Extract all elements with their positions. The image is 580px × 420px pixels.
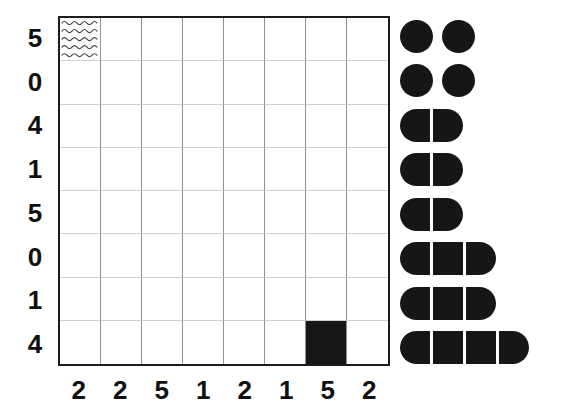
grid-cell[interactable] bbox=[101, 18, 142, 61]
grid-cell[interactable] bbox=[224, 105, 265, 148]
pill-left-cap bbox=[400, 287, 430, 320]
grid-cell[interactable] bbox=[60, 191, 101, 234]
pill-left-cap bbox=[400, 242, 430, 275]
grid-cell[interactable] bbox=[347, 278, 388, 321]
pill-middle-segment bbox=[433, 287, 463, 320]
grid-container bbox=[58, 16, 390, 366]
grid-cell[interactable] bbox=[265, 148, 306, 191]
grid-cell[interactable] bbox=[265, 61, 306, 104]
grid-cell[interactable] bbox=[306, 191, 347, 234]
row-label-axis: 50415014 bbox=[16, 16, 54, 366]
grid-cell[interactable] bbox=[224, 61, 265, 104]
row-label: 0 bbox=[16, 235, 54, 279]
grid-cell[interactable] bbox=[183, 105, 224, 148]
pill-right-cap bbox=[499, 331, 529, 364]
row-label: 1 bbox=[16, 147, 54, 191]
grid-cell[interactable] bbox=[101, 278, 142, 321]
grid-cell[interactable] bbox=[142, 234, 183, 277]
row-label: 5 bbox=[16, 16, 54, 60]
row-label: 1 bbox=[16, 279, 54, 323]
grid-cell[interactable] bbox=[60, 105, 101, 148]
grid-cell[interactable] bbox=[60, 234, 101, 277]
grid-cell[interactable] bbox=[306, 234, 347, 277]
grid-cell[interactable] bbox=[265, 105, 306, 148]
solid-black-cell[interactable] bbox=[306, 321, 347, 364]
grid-cell[interactable] bbox=[224, 234, 265, 277]
worksheet-canvas: 50415014 22512152 bbox=[0, 0, 580, 420]
grid-cell[interactable] bbox=[101, 234, 142, 277]
grid-cell[interactable] bbox=[347, 321, 388, 364]
grid-cell[interactable] bbox=[60, 148, 101, 191]
grid-cell[interactable] bbox=[224, 191, 265, 234]
grid-cell[interactable] bbox=[306, 61, 347, 104]
grid-cell[interactable] bbox=[60, 61, 101, 104]
grid-cell[interactable] bbox=[142, 61, 183, 104]
grid-cell[interactable] bbox=[265, 191, 306, 234]
grid-cell[interactable] bbox=[224, 148, 265, 191]
grid-cell[interactable] bbox=[142, 321, 183, 364]
grid-cell[interactable] bbox=[347, 105, 388, 148]
glyph-row bbox=[400, 14, 570, 59]
grid-cell[interactable] bbox=[183, 148, 224, 191]
grid-cell[interactable] bbox=[183, 278, 224, 321]
grid-cell[interactable] bbox=[224, 321, 265, 364]
pill-left-cap bbox=[400, 109, 430, 142]
circle-glyph bbox=[400, 20, 433, 53]
column-label: 5 bbox=[141, 371, 183, 409]
grid-cell[interactable] bbox=[306, 18, 347, 61]
pill-right-cap bbox=[433, 153, 463, 186]
grid-cell[interactable] bbox=[142, 278, 183, 321]
grid-cell[interactable] bbox=[101, 321, 142, 364]
grid-cell[interactable] bbox=[306, 278, 347, 321]
grid-cell[interactable] bbox=[347, 148, 388, 191]
wavy-pattern-cell[interactable] bbox=[60, 18, 101, 61]
grid-cell[interactable] bbox=[60, 321, 101, 364]
grid-cell[interactable] bbox=[347, 18, 388, 61]
grid-cell[interactable] bbox=[142, 191, 183, 234]
glyph-row bbox=[400, 326, 570, 371]
row-label: 4 bbox=[16, 104, 54, 148]
row-label: 0 bbox=[16, 60, 54, 104]
grid-cell[interactable] bbox=[306, 148, 347, 191]
grid-cell[interactable] bbox=[101, 191, 142, 234]
grid-cell[interactable] bbox=[347, 61, 388, 104]
grid-cell[interactable] bbox=[265, 234, 306, 277]
grid-cell[interactable] bbox=[265, 18, 306, 61]
grid bbox=[60, 18, 388, 364]
grid-cell[interactable] bbox=[183, 321, 224, 364]
grid-cell[interactable] bbox=[265, 278, 306, 321]
pill-right-cap bbox=[466, 287, 496, 320]
glyph-panel bbox=[400, 14, 570, 370]
column-label: 5 bbox=[307, 371, 349, 409]
pill-right-cap bbox=[466, 242, 496, 275]
grid-cell[interactable] bbox=[224, 18, 265, 61]
grid-cell[interactable] bbox=[265, 321, 306, 364]
grid-cell[interactable] bbox=[183, 191, 224, 234]
pill-right-cap bbox=[433, 198, 463, 231]
circle-glyph bbox=[442, 64, 475, 97]
grid-cell[interactable] bbox=[347, 191, 388, 234]
grid-cell[interactable] bbox=[183, 234, 224, 277]
grid-cell[interactable] bbox=[101, 61, 142, 104]
pill-left-cap bbox=[400, 153, 430, 186]
grid-cell[interactable] bbox=[142, 148, 183, 191]
grid-cell[interactable] bbox=[142, 105, 183, 148]
grid-cell[interactable] bbox=[101, 148, 142, 191]
pill-middle-segment bbox=[433, 242, 463, 275]
circle-glyph bbox=[400, 64, 433, 97]
glyph-row bbox=[400, 281, 570, 326]
pill-left-cap bbox=[400, 198, 430, 231]
grid-cell[interactable] bbox=[142, 18, 183, 61]
grid-cell[interactable] bbox=[101, 105, 142, 148]
glyph-row bbox=[400, 148, 570, 193]
grid-cell[interactable] bbox=[347, 234, 388, 277]
grid-cell[interactable] bbox=[60, 278, 101, 321]
column-label: 2 bbox=[224, 371, 266, 409]
column-label-axis: 22512152 bbox=[58, 371, 390, 409]
grid-cell[interactable] bbox=[306, 105, 347, 148]
grid-cell[interactable] bbox=[183, 18, 224, 61]
grid-cell[interactable] bbox=[183, 61, 224, 104]
pill-right-cap bbox=[433, 109, 463, 142]
pill-left-cap bbox=[400, 331, 430, 364]
grid-cell[interactable] bbox=[224, 278, 265, 321]
